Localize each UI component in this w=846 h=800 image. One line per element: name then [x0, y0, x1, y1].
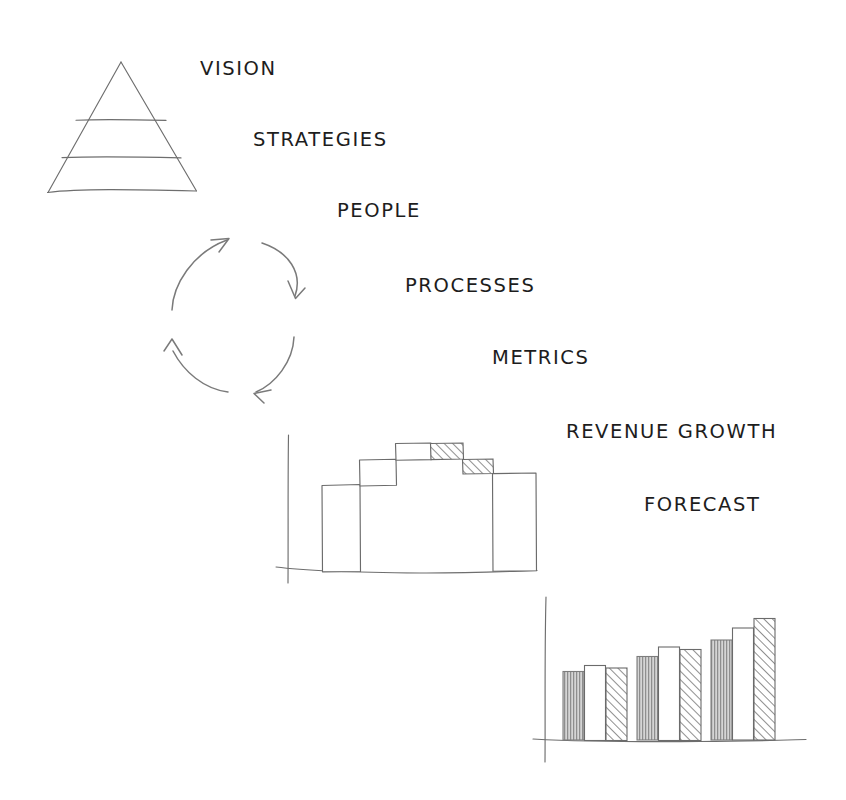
pyramid-divider-2 [62, 157, 181, 158]
forecast-bar-actual-2 [637, 657, 658, 741]
forecast-bar-actual-1 [563, 672, 584, 741]
forecast-bar-forecast-3 [754, 619, 775, 741]
forecast-group-1 [563, 666, 627, 741]
label-people: PEOPLE [337, 199, 421, 222]
waterfall-y-axis [288, 435, 289, 583]
forecast-group-3 [711, 619, 775, 741]
cycle-arrow-top-right [262, 243, 305, 299]
revenue-growth-waterfall-chart [276, 435, 537, 583]
cycle-arrow-top-left [172, 239, 229, 311]
forecast-bar-forecast-2 [680, 650, 701, 741]
sketch-canvas: VISION STRATEGIES PEOPLE PROCESSES METRI… [0, 0, 846, 800]
continuous-improvement-cycle [164, 239, 305, 404]
diagram-labels: VISION STRATEGIES PEOPLE PROCESSES METRI… [200, 57, 777, 516]
forecast-bar-plan-1 [585, 666, 606, 741]
label-vision: VISION [200, 57, 277, 80]
forecast-group-2 [637, 647, 701, 741]
forecast-bar-actual-3 [711, 640, 732, 740]
pyramid-divider-1 [76, 120, 166, 121]
vision-pyramid [48, 62, 197, 193]
label-strategies: STRATEGIES [253, 128, 388, 151]
cycle-arrow-bottom-right [254, 337, 294, 403]
hand-drawn-diagram: VISION STRATEGIES PEOPLE PROCESSES METRI… [0, 0, 846, 800]
label-revenue-growth: REVENUE GROWTH [566, 420, 777, 443]
waterfall-bars [322, 443, 537, 572]
forecast-grouped-bar-chart [533, 597, 806, 762]
waterfall-bar-base [322, 485, 361, 572]
forecast-y-axis [545, 597, 546, 762]
waterfall-bar-growth-1 [360, 459, 397, 486]
waterfall-bar-decline-1 [431, 443, 464, 460]
label-metrics: METRICS [492, 346, 590, 369]
forecast-bar-plan-2 [659, 647, 680, 741]
waterfall-bar-decline-2 [463, 459, 494, 474]
forecast-bar-plan-3 [733, 628, 754, 740]
label-forecast: FORECAST [644, 493, 760, 516]
forecast-bar-forecast-1 [606, 668, 627, 741]
cycle-arrow-bottom-left [164, 339, 228, 392]
label-processes: PROCESSES [405, 274, 535, 297]
waterfall-bar-total [493, 473, 537, 571]
waterfall-bar-growth-2 [396, 443, 432, 460]
